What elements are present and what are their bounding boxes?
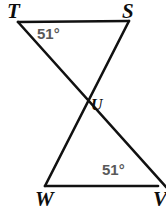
geometry-figure: T S U W V 51° 51°	[0, 0, 166, 211]
vertex-label-w: W	[35, 189, 54, 210]
vertex-label-s: S	[122, 1, 134, 22]
diagram-canvas	[0, 0, 166, 211]
segment-TS	[18, 21, 129, 22]
angle-measure-at-t: 51°	[37, 26, 60, 41]
vertex-label-u: U	[91, 97, 103, 113]
vertex-label-t: T	[7, 1, 20, 22]
vertex-label-v: V	[153, 189, 166, 210]
angle-measure-at-v: 51°	[102, 162, 125, 177]
